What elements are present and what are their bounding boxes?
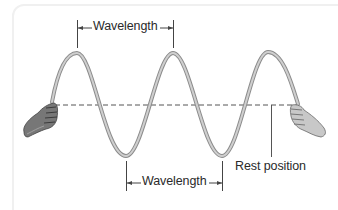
rest-position-label: Rest position: [235, 159, 306, 173]
rope-wave: [52, 52, 298, 156]
wavelength-label-top: Wavelength: [93, 19, 158, 33]
left-hand-icon: [24, 103, 58, 137]
wavelength-label-bottom: Wavelength: [142, 174, 207, 188]
right-hand-icon: [290, 105, 325, 137]
